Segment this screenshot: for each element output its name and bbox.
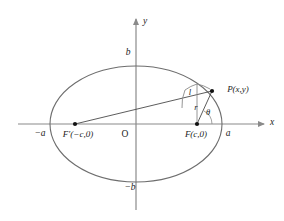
- semi-latus-rectum-label: l: [189, 87, 192, 97]
- focus-left-point: [73, 122, 77, 126]
- ellipse-diagram: x y O b −b −a a F′(−c,0) F(c,0) P(x,y) l…: [0, 0, 284, 221]
- semi-minor-positive-label: b: [126, 47, 131, 57]
- focus-right-point: [195, 122, 199, 126]
- semi-major-negative-label: −a: [34, 128, 45, 138]
- y-axis-label: y: [142, 16, 148, 26]
- semi-minor-negative-label: −b: [124, 182, 135, 192]
- x-axis-label: x: [269, 117, 275, 127]
- origin-label: O: [122, 129, 129, 139]
- focus-right-label: F(c,0): [184, 129, 207, 139]
- focus-left-label: F′(−c,0): [62, 129, 93, 139]
- ellipse-diagram-canvas: x y O b −b −a a F′(−c,0) F(c,0) P(x,y) l…: [0, 0, 284, 221]
- point-p-marker: [210, 89, 214, 93]
- semi-major-positive-label: a: [226, 128, 231, 138]
- polar-angle-label: θ: [206, 107, 210, 117]
- focal-radius-label: r: [194, 102, 198, 112]
- focal-chord-left: [75, 91, 212, 124]
- point-p-label: P(x,y): [226, 84, 249, 94]
